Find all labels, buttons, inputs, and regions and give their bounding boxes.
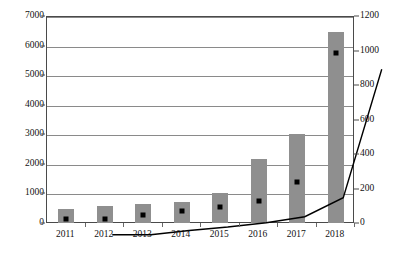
bar-2018 (328, 32, 344, 223)
y-left-tick (41, 104, 45, 105)
y-left-tick (41, 75, 45, 76)
line-marker-2014 (179, 209, 184, 214)
x-tick-label-2012: 2012 (94, 230, 113, 240)
y-right-tick (354, 188, 359, 189)
line-marker-2012 (102, 216, 107, 221)
x-tick-label-2017: 2017 (287, 230, 306, 240)
x-tick (85, 223, 86, 227)
y-right-tick (354, 50, 359, 51)
y-right-tick-label: 800 (360, 80, 374, 90)
y-right-tick-label: 0 (360, 218, 365, 228)
y-left-tick (41, 134, 45, 135)
gridlines (47, 17, 353, 222)
x-tick-label-2016: 2016 (248, 230, 267, 240)
line-marker-2013 (141, 212, 146, 217)
x-tick-label-2015: 2015 (210, 230, 229, 240)
line-marker-2017 (295, 179, 300, 184)
y-right-tick (354, 85, 359, 86)
x-tick-label-2018: 2018 (325, 230, 344, 240)
line-marker-2016 (256, 198, 261, 203)
line-marker-2015 (218, 204, 223, 209)
gridline (47, 17, 353, 18)
gridline (47, 135, 353, 136)
y-right-tick-label: 200 (360, 184, 374, 194)
bar-2016 (251, 159, 267, 223)
x-tick (354, 223, 355, 227)
x-tick-label-2011: 2011 (56, 230, 75, 240)
line-marker-2011 (64, 216, 69, 221)
gridline (47, 165, 353, 166)
y-left-tick (41, 45, 45, 46)
y-left-tick (41, 193, 45, 194)
y-left-tick (41, 16, 45, 17)
x-tick (277, 223, 278, 227)
x-tick (316, 223, 317, 227)
x-tick-label-2014: 2014 (171, 230, 190, 240)
gridline (47, 47, 353, 48)
plot-area (46, 16, 354, 223)
y-right-tick-label: 1000 (360, 46, 379, 56)
gridline (47, 194, 353, 195)
y-right-tick (354, 154, 359, 155)
x-tick (239, 223, 240, 227)
y-left-tick (41, 163, 45, 164)
x-tick-label-2013: 2013 (133, 230, 152, 240)
x-tick (162, 223, 163, 227)
chart-container: 01000200030004000500060007000 0200400600… (0, 0, 393, 268)
gridline (47, 76, 353, 77)
y-right-tick-label: 600 (360, 115, 374, 125)
line-marker-2018 (333, 51, 338, 56)
x-tick (200, 223, 201, 227)
y-right-tick-label: 1200 (360, 11, 379, 21)
y-left-tick (41, 223, 45, 224)
y-right-tick-label: 400 (360, 149, 374, 159)
y-right-tick (354, 119, 359, 120)
gridline (47, 106, 353, 107)
x-tick (123, 223, 124, 227)
y-right-tick (354, 16, 359, 17)
